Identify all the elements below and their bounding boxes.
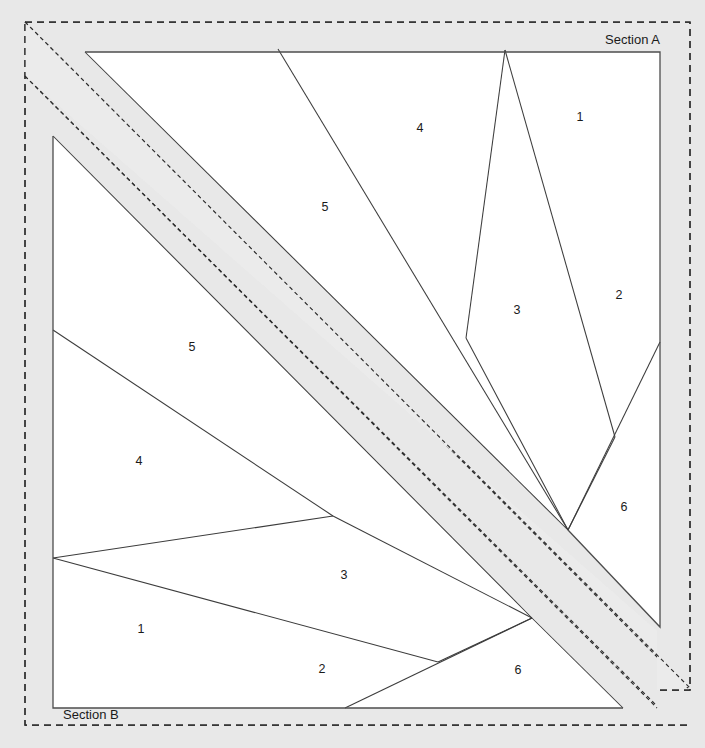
section-b-region-label-6: 6 <box>515 663 522 677</box>
section-a-region-label-3: 3 <box>514 303 521 317</box>
section-b-region-label-5: 5 <box>189 340 196 354</box>
section-a-region-label-5: 5 <box>322 200 329 214</box>
sections-diagram: 1 2 3 4 5 6 Section A <box>0 0 705 748</box>
section-a-region-label-2: 2 <box>616 288 623 302</box>
section-b-title: Section B <box>63 707 119 722</box>
section-a-title: Section A <box>605 32 660 47</box>
section-a-region-label-4: 4 <box>417 121 424 135</box>
technical-diagram-root: 1 2 3 4 5 6 Section A <box>0 0 705 748</box>
section-b-region-label-2: 2 <box>319 662 326 676</box>
section-a-region-label-1: 1 <box>577 110 584 124</box>
section-b-region-label-1: 1 <box>138 622 145 636</box>
section-a-region-label-6: 6 <box>621 500 628 514</box>
section-b-region-label-4: 4 <box>136 454 143 468</box>
section-b-region-label-3: 3 <box>341 568 348 582</box>
